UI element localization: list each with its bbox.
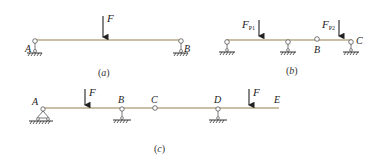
label-f1: F (88, 86, 96, 98)
diagram-b: FP1 FP2 B C (b) (219, 18, 363, 77)
label-b: B (118, 94, 124, 105)
label-fp2: FP2 (321, 18, 335, 31)
beam-diagrams: F A B (a) (0, 0, 381, 161)
hinge-c-icon (153, 106, 158, 111)
label-fp1: FP1 (241, 18, 255, 31)
label-e: E (273, 94, 280, 105)
label-a: A (31, 96, 39, 107)
label-a: A (24, 43, 32, 54)
diagram-a: F A B (a) (24, 12, 190, 79)
label-c: C (356, 35, 363, 46)
caption-c: (c) (154, 143, 165, 155)
label-b: B (184, 43, 190, 54)
caption-b: (b) (286, 65, 298, 77)
label-d: D (213, 94, 222, 105)
caption-a: (a) (98, 67, 110, 79)
hinge-b-icon (315, 37, 320, 42)
roller-support-b-middle-icon (280, 40, 296, 55)
diagram-c: F F A B C D E (c) (29, 86, 280, 155)
roller-support-d-icon (209, 107, 227, 123)
label-b: B (314, 44, 320, 55)
roller-support-b-left-icon (219, 40, 235, 55)
pin-support-a-icon (29, 107, 53, 124)
label-c: C (151, 94, 158, 105)
roller-support-b-icon (113, 107, 131, 123)
label-f2: F (252, 86, 260, 98)
label-f: F (106, 12, 114, 24)
